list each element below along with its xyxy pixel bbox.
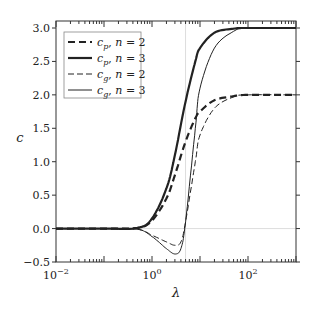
series-line — [56, 95, 296, 229]
y-axis-label: c — [16, 130, 24, 145]
x-tick-label: 102 — [238, 267, 257, 282]
y-tick-label: 2.5 — [33, 55, 51, 68]
chart: −0.50.00.51.01.52.02.53.010−2100102λccp,… — [0, 0, 318, 315]
y-tick-label: 3.0 — [33, 22, 51, 35]
y-tick-label: 1.5 — [33, 122, 51, 135]
y-tick-label: 2.0 — [33, 89, 51, 102]
x-tick-label: 100 — [142, 267, 161, 282]
x-tick-label: 10−2 — [43, 267, 69, 282]
y-tick-label: 0.5 — [33, 189, 51, 202]
x-axis-label: λ — [171, 285, 180, 300]
y-tick-label: 0.0 — [33, 223, 51, 236]
y-tick-label: 1.0 — [33, 156, 51, 169]
y-tick-label: −0.5 — [23, 256, 50, 269]
